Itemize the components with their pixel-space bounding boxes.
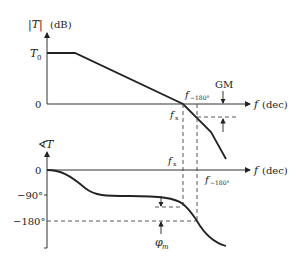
zero-db-label: 0 [35,99,41,110]
minus180-label: −180° [13,216,45,227]
phase-margin-label-sub: m [162,243,169,251]
phase-axis-symbol: ∢T [37,138,55,151]
magnitude-axis-unit: (dB) [50,19,72,30]
gain-margin-label: GM [215,79,233,90]
phase-zero-label: 0 [35,165,41,176]
minus90-label: −90° [17,190,43,201]
phase-curve [47,170,226,246]
t0-label-sub: 0 [37,54,41,62]
magnitude-x-axis-symbol: f [253,98,260,111]
magnitude-plot: |T| (dB) T 0 0 f (dec) f −180° f x GM [28,18,288,159]
magnitude-x-axis-unit: (dec) [262,99,288,110]
magnitude-axis-symbol: |T| [28,18,43,32]
bode-diagram: |T| (dB) T 0 0 f (dec) f −180° f x GM f … [0,0,299,262]
f-minus180-label-bottom-sub: −180° [210,179,229,186]
fx-label-top-sub: x [175,114,179,121]
f-minus180-label-top-sub: −180° [190,94,209,101]
phase-plot: ∢T 0 −90° −180° f (dec) f −180° φ m [13,138,288,251]
magnitude-curve [47,53,226,159]
phase-x-axis-unit: (dec) [262,165,288,176]
fx-label-mid-sub: x [173,160,177,167]
phase-x-axis-symbol: f [253,164,260,177]
